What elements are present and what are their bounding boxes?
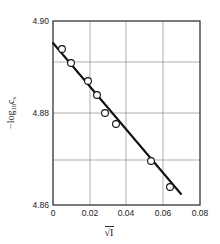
y-axis-title: −log10cs bbox=[5, 97, 17, 129]
ytick-label-4.88: 4.88 bbox=[32, 108, 49, 118]
xtick-label-0.02: 0.02 bbox=[82, 208, 99, 218]
xtick-label-0.06: 0.06 bbox=[155, 208, 172, 218]
log-glyph: log bbox=[5, 111, 16, 124]
ytick-label-4.90: 4.90 bbox=[32, 16, 49, 26]
xtick-label-0.08: 0.08 bbox=[192, 208, 209, 218]
data-point bbox=[94, 92, 101, 99]
data-point bbox=[102, 110, 109, 117]
data-point bbox=[148, 158, 155, 165]
data-point bbox=[113, 121, 120, 128]
ytick-label-4.86: 4.86 bbox=[32, 200, 49, 210]
chart-figure: 4.90 4.88 4.86 0 0.02 0.04 0.06 0.08 √I … bbox=[0, 0, 220, 244]
data-point bbox=[167, 184, 174, 191]
data-point bbox=[59, 46, 66, 53]
x-axis-title: √I bbox=[105, 227, 114, 239]
x-axis-title-text: √I bbox=[105, 227, 114, 238]
y-axis-title-text: −log10cs bbox=[5, 97, 17, 129]
xtick-label-0.04: 0.04 bbox=[118, 208, 135, 218]
xtick-label-0: 0 bbox=[51, 208, 56, 218]
sqrt-variable-glyph: I bbox=[110, 227, 113, 238]
data-point bbox=[85, 78, 92, 85]
data-point bbox=[68, 60, 75, 67]
